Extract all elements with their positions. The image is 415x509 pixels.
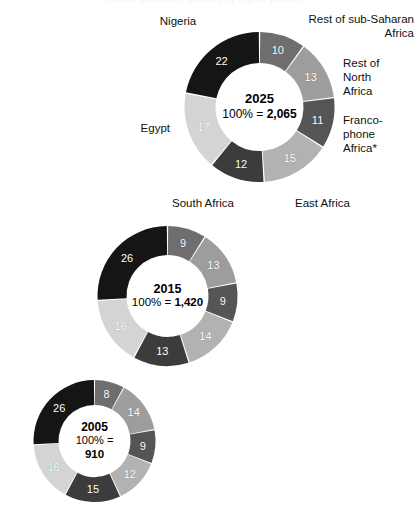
- donut-chart-2015: 2015 100% = 1,420 913914131626: [97, 226, 238, 366]
- segment-value-label: 13: [207, 259, 219, 271]
- donut-chart-2005: 2005 100% = 910 814912151626: [33, 379, 156, 503]
- segment-value-label: 9: [180, 237, 186, 249]
- callout-east-africa: East Africa: [295, 196, 375, 210]
- segment-value-label: 8: [103, 388, 109, 400]
- donut-chart-2025: 2025 100% = 2,065 10131115121722: [184, 18, 335, 196]
- callout-nigeria: Nigeria: [138, 14, 218, 28]
- callout-egypt: Egypt: [118, 121, 170, 135]
- segment-value-label: 26: [121, 252, 133, 264]
- segment-value-label: 9: [140, 440, 146, 452]
- callout-rest-sub-saharan-africa: Rest of sub-Saharan Africa: [290, 12, 414, 40]
- segment-value-label: 26: [53, 402, 65, 414]
- segment-value-label: 12: [124, 468, 136, 480]
- segment-value-label: 16: [47, 461, 59, 473]
- segment-value-label: 10: [272, 44, 284, 56]
- segment-value-label: 9: [220, 295, 226, 307]
- segment-value-label: 13: [156, 345, 168, 357]
- donut-2025-svg: [184, 18, 335, 196]
- segment-value-label: 12: [235, 158, 247, 170]
- cut-off-title: Exhibit: Consumer spending by region, pe…: [105, 0, 355, 4]
- chart-canvas: Exhibit: Consumer spending by region, pe…: [0, 0, 415, 509]
- segment-value-label: 11: [312, 114, 323, 126]
- callout-francophone-africa: Franco- phone Africa*: [343, 113, 413, 155]
- segment-value-label: 15: [87, 483, 99, 495]
- segment-value-label: 14: [128, 406, 140, 418]
- segment-value-label: 14: [199, 330, 211, 342]
- segment-value-label: 15: [284, 152, 296, 164]
- segment-value-label: 16: [115, 320, 127, 332]
- segment-value-label: 13: [305, 71, 317, 83]
- segment-value-label: 17: [197, 121, 209, 133]
- segment-value-label: 22: [215, 55, 227, 67]
- callout-south-africa: South Africa: [172, 196, 262, 210]
- callout-rest-north-africa: Rest of North Africa: [343, 56, 413, 98]
